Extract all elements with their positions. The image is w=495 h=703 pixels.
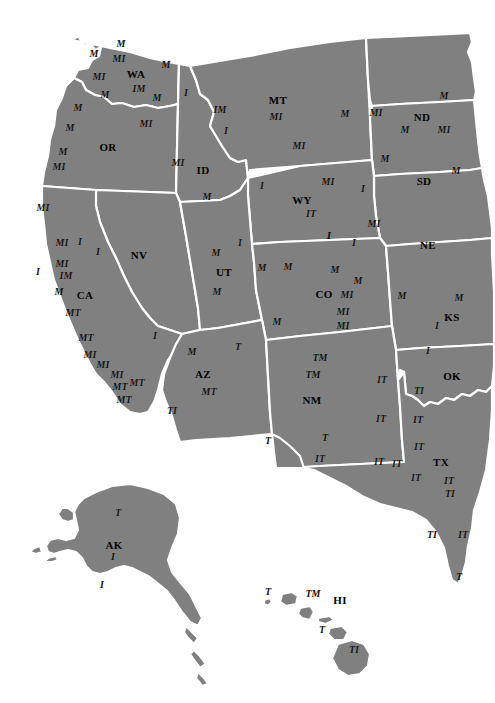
state-shape-ks xyxy=(386,238,494,350)
state-shape-az xyxy=(162,320,272,442)
state-shape-ak-panhandle-2 xyxy=(190,650,206,668)
state-shape-hi-bigisland xyxy=(332,640,370,676)
state-shape-wy xyxy=(248,160,380,244)
state-shape-nd xyxy=(366,33,476,106)
map-container: WAORIDMTNDSDNEWYNVUTCOKSCAAZNMOKTXAKHI M… xyxy=(0,0,495,703)
land-masses xyxy=(30,33,494,686)
map-graphic xyxy=(0,0,495,703)
state-shape-ak-panhandle-3 xyxy=(196,672,208,686)
state-shape-sd xyxy=(370,100,482,176)
state-shape-ak-aleutian-1 xyxy=(30,546,42,554)
state-shape-hi-oahu xyxy=(298,606,314,620)
state-shape-co xyxy=(252,238,392,340)
state-shape-hi-niihau xyxy=(264,598,272,606)
state-shape-hi-maui xyxy=(328,626,348,640)
state-shape-ak xyxy=(46,484,202,626)
state-shape-hi-molokai xyxy=(318,616,334,624)
state-shape-ak-panhandle-1 xyxy=(184,626,198,644)
state-shape-hi-kauai xyxy=(280,592,298,606)
state-shape-ne xyxy=(374,168,492,246)
state-shape-ak-aleutian-2 xyxy=(44,556,58,562)
state-shape-ak-west xyxy=(58,508,74,522)
